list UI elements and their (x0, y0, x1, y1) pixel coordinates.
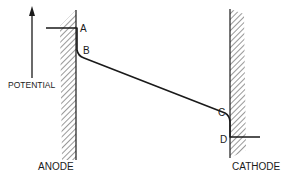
potential-diagram: POTENTIAL ANODE CATHODE A B C D (0, 0, 291, 180)
point-c-label: C (218, 107, 225, 118)
point-a-label: A (80, 23, 87, 34)
potential-label: POTENTIAL (8, 80, 56, 90)
potential-axis-arrow (29, 6, 35, 78)
cathode-electrode (230, 9, 246, 158)
cathode-label: CATHODE (232, 161, 280, 172)
point-d-label: D (220, 134, 227, 145)
anode-label: ANODE (38, 161, 74, 172)
anode-electrode (60, 10, 76, 160)
point-b-label: B (83, 45, 90, 56)
potential-curve (46, 28, 260, 137)
arrow-up-icon (29, 6, 35, 16)
